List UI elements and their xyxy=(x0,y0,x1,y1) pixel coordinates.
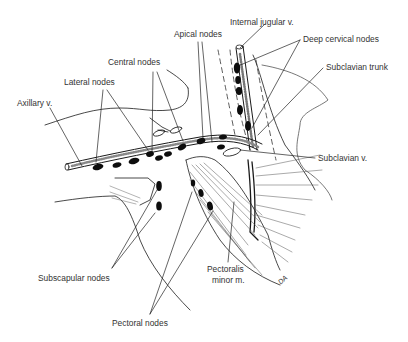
label-axillary-vein: Axillary v. xyxy=(17,98,52,108)
label-central-nodes: Central nodes xyxy=(108,57,160,67)
leader-lines xyxy=(50,24,323,314)
label-deep-cervical-nodes: Deep cervical nodes xyxy=(303,34,379,44)
label-pectoral-nodes: Pectoral nodes xyxy=(112,318,168,328)
label-apical-nodes: Apical nodes xyxy=(174,29,222,39)
label-lateral-nodes: Lateral nodes xyxy=(64,77,115,87)
lymph-nodes xyxy=(92,63,251,212)
axillary-lymph-node-diagram xyxy=(0,0,408,342)
label-subclavian-trunk: Subclavian trunk xyxy=(326,62,388,72)
label-pectoralis-minor-line2: minor m. xyxy=(212,275,245,285)
subscapularis-block xyxy=(110,178,155,205)
pectoral-node-cluster xyxy=(191,180,214,212)
label-internal-jugular-vein: Internal jugular v. xyxy=(230,17,294,27)
label-subscapular-nodes: Subscapular nodes xyxy=(38,273,110,283)
label-pectoralis-minor-line1: Pectoralis xyxy=(207,264,244,274)
subscapular-node-cluster xyxy=(156,181,162,211)
axillary-vein xyxy=(65,135,262,170)
label-subclavian-vein: Subclavian v. xyxy=(318,153,367,163)
internal-jugular-vein xyxy=(236,45,257,150)
